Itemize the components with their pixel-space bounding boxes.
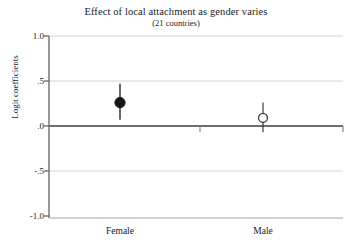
x-tick-label-male: Male: [223, 226, 303, 237]
x-axis-tick-labels: Female Male: [0, 0, 352, 246]
x-tick-label-female: Female: [80, 226, 160, 237]
chart-figure: Effect of local attachment as gender var…: [0, 0, 352, 246]
